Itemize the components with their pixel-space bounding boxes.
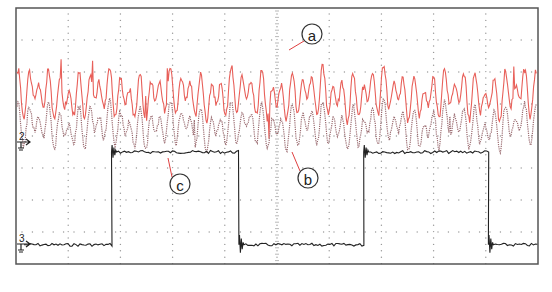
channel-label: 2: [19, 131, 25, 142]
grid: [21, 11, 532, 264]
channel-label: 3: [19, 233, 25, 244]
annotation-label: c: [176, 177, 184, 194]
channel-marker-3: 3: [17, 233, 30, 252]
annotation-label: a: [308, 27, 317, 44]
annotation-arrow: [292, 152, 300, 171]
annotation-label: b: [304, 171, 312, 188]
annotation-c: c: [168, 158, 190, 194]
trace-c: [24, 145, 537, 253]
channel-markers: 23: [17, 131, 30, 252]
annotation-arrow: [289, 41, 304, 50]
annotation-a: a: [289, 24, 322, 50]
annotation-arrow: [168, 158, 172, 177]
traces: [17, 59, 537, 253]
oscilloscope-display: 23 abc: [0, 0, 552, 292]
annotation-b: b: [292, 152, 318, 188]
